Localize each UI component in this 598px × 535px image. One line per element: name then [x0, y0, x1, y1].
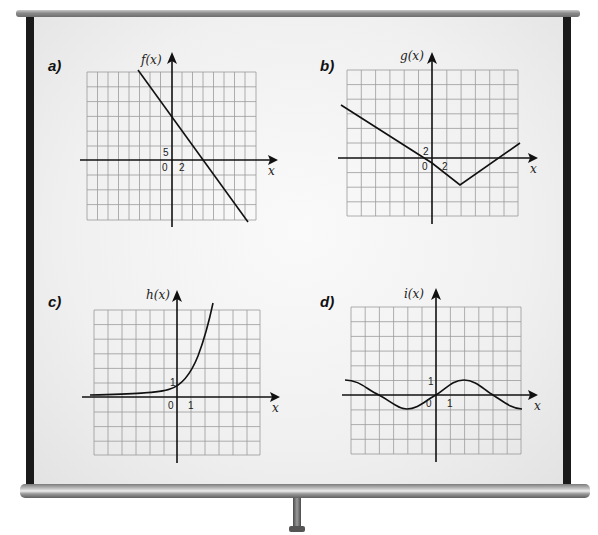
y-axis-title-d: i(x) — [404, 287, 424, 301]
origin-label-d: 0 — [426, 398, 432, 409]
x-tick-label-d: 1 — [447, 398, 453, 409]
y-tick-label-d: 1 — [428, 376, 434, 387]
stand-foot — [289, 526, 305, 532]
graph-d-labels: i(x) x 0 1 1 — [0, 0, 598, 535]
x-axis-title-d: x — [534, 399, 541, 413]
screen-stand — [293, 498, 301, 528]
bottom-roller — [20, 484, 590, 498]
